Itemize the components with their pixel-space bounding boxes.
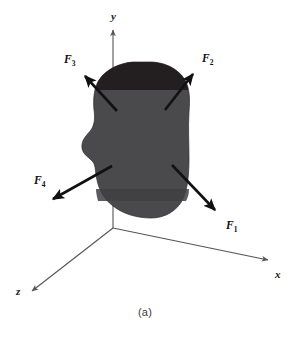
force-label-F1-base: F <box>225 219 234 231</box>
force-label-F1-sub: 1 <box>234 225 238 234</box>
force-label-F1: F1 <box>225 219 238 234</box>
force-label-F3-base: F <box>63 53 72 65</box>
axis-line-z <box>32 228 113 291</box>
force-label-F4: F4 <box>33 174 46 189</box>
axis-line-x <box>113 228 268 260</box>
force-label-F2: F2 <box>201 52 214 67</box>
force-diagram: F1 F2 F3 F4 y x z <box>0 0 290 342</box>
force-label-F2-base: F <box>201 52 210 64</box>
axis-label-x: x <box>274 268 281 280</box>
axis-label-z: z <box>15 285 21 297</box>
force-label-F4-base: F <box>33 174 42 186</box>
blob-top-cap <box>96 62 188 90</box>
force-label-F3-sub: 3 <box>72 59 76 68</box>
figure-caption: (a) <box>0 306 290 318</box>
blob-lower-band <box>96 189 189 201</box>
figure-container: F1 F2 F3 F4 y x z (a) <box>0 0 290 342</box>
axis-label-y: y <box>109 10 116 22</box>
force-label-F2-sub: 2 <box>210 58 214 67</box>
force-label-F4-sub: 4 <box>42 180 46 189</box>
rigid-body-blob <box>82 62 190 218</box>
force-label-F3: F3 <box>63 53 76 68</box>
